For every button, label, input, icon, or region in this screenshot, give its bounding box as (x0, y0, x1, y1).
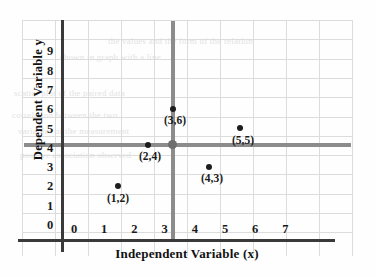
x-tick-label: 6 (243, 222, 267, 237)
gridline-vertical (154, 20, 155, 256)
data-point-label: (3,6) (164, 114, 186, 126)
y-tick-label: 0 (38, 218, 62, 233)
x-tick-label: 7 (273, 222, 297, 237)
gridline-vertical (220, 20, 221, 256)
gridline-vertical (187, 20, 188, 256)
y-tick-label: 1 (38, 198, 62, 213)
x-axis-title: Independent Variable (x) (62, 246, 312, 262)
data-point-label: (2,4) (139, 150, 161, 162)
data-point (115, 183, 121, 189)
scatter-plot-figure: the values and the form of the relations… (0, 0, 375, 276)
x-tick-label: 5 (213, 222, 237, 237)
data-point (206, 164, 212, 170)
gridline-vertical (352, 20, 353, 256)
mean-intersection-point (168, 140, 177, 149)
gridline-vertical (88, 20, 89, 256)
y-tick-label: 2 (38, 179, 62, 194)
data-point (237, 125, 243, 131)
y-mean-line (24, 143, 351, 147)
x-mean-line (171, 21, 175, 239)
data-point-label: (4,3) (201, 172, 223, 184)
gridline-vertical (22, 20, 23, 256)
x-tick-label: 3 (153, 222, 177, 237)
data-point-label: (5,5) (232, 134, 254, 146)
y-axis-title: Dependent Variable y (31, 20, 46, 180)
gridline-vertical (121, 20, 122, 256)
x-tick-label: 4 (183, 222, 207, 237)
gridline-vertical (319, 20, 320, 256)
data-point (170, 106, 176, 112)
gridline-vertical (286, 20, 287, 256)
x-tick-label: 1 (92, 222, 116, 237)
x-tick-label: 2 (122, 222, 146, 237)
x-axis-line (18, 239, 335, 242)
plot-grid-area (22, 20, 352, 256)
data-point (145, 142, 151, 148)
data-point-label: (1,2) (107, 192, 129, 204)
x-tick-label: 0 (62, 222, 86, 237)
